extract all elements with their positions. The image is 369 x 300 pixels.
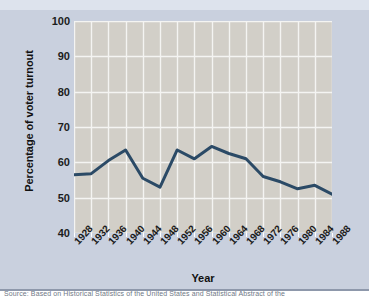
plot-area: [74, 21, 332, 233]
y-tick-label: 70: [44, 122, 70, 133]
voter-turnout-line: [74, 21, 332, 233]
y-tick-label: 100: [44, 16, 70, 27]
y-axis-label: Percentage of voter turnout: [23, 26, 35, 216]
y-tick-label: 90: [44, 51, 70, 62]
y-tick-label: 60: [44, 157, 70, 168]
y-tick-label: 50: [44, 193, 70, 204]
source-caption: Source: Based on Historical Statistics o…: [0, 291, 369, 300]
y-axis-ticks: 405060708090100: [38, 0, 70, 300]
y-tick-label: 80: [44, 87, 70, 98]
source-caption-text: Source: Based on Historical Statistics o…: [4, 291, 285, 297]
y-tick-label: 40: [44, 228, 70, 239]
chart-figure: 405060708090100 Percentage of voter turn…: [0, 0, 369, 300]
x-axis-label: Year: [74, 272, 332, 284]
x-tick-label: 1988: [330, 223, 353, 246]
